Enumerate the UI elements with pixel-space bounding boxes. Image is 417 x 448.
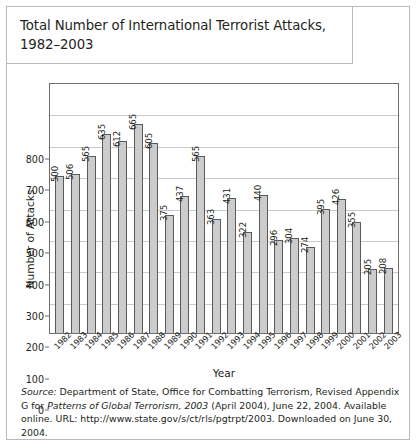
bar-value-label: 208: [378, 258, 388, 274]
bar-value-label: 665: [128, 114, 138, 130]
y-axis-tick-label: 800: [26, 154, 44, 165]
x-axis-tick: 2000: [334, 335, 350, 371]
x-axis-tick: 1983: [67, 335, 83, 371]
bar: 375: [165, 215, 174, 333]
bar-value-label: 635: [97, 124, 107, 140]
x-axis-tick: 1989: [161, 335, 177, 371]
bar-value-label: 296: [269, 230, 279, 246]
bar: 565: [87, 156, 96, 333]
bar: 612: [118, 141, 127, 333]
bar-value-label: 565: [191, 146, 201, 162]
bar-slot: 500: [52, 84, 68, 333]
bar-slot: 635: [99, 84, 115, 333]
bar-slot: 205: [365, 84, 381, 333]
bar-slot: 437: [177, 84, 193, 333]
bar-value-label: 506: [65, 164, 75, 180]
bar-value-label: 565: [81, 146, 91, 162]
bar-value-label: 437: [175, 186, 185, 202]
x-axis-tick: 2003: [381, 335, 397, 371]
bar-value-label: 274: [300, 237, 310, 253]
bar: 208: [384, 268, 393, 333]
bar-value-label: 440: [253, 185, 263, 201]
bar-value-label: 612: [112, 131, 122, 147]
bar: 363: [212, 219, 221, 333]
x-axis-tick: 1988: [145, 335, 161, 371]
bar-value-label: 304: [284, 228, 294, 244]
page-title: Total Number of International Terrorist …: [20, 16, 344, 54]
bar: 426: [337, 199, 346, 333]
x-axis-tick: 1995: [256, 335, 272, 371]
bar-series: 5005065656356126656053754375653634313224…: [50, 84, 398, 333]
bar: 322: [243, 232, 252, 333]
y-axis-tick-label: 100: [26, 373, 44, 384]
bar: 395: [321, 209, 330, 333]
bar-slot: 304: [287, 84, 303, 333]
bar: 274: [306, 247, 315, 333]
bar-slot: 431: [224, 84, 240, 333]
y-axis-tick-label: 200: [26, 342, 44, 353]
y-axis-tick-label: 400: [26, 279, 44, 290]
bar-value-label: 355: [347, 212, 357, 228]
bar-value-label: 500: [50, 166, 60, 182]
x-axis-tick: 1986: [114, 335, 130, 371]
source-label: Source:: [21, 386, 57, 397]
bar-slot: 395: [318, 84, 334, 333]
y-axis-tick-label: 500: [26, 248, 44, 259]
y-axis: Number of Attacks 0100200300400500600700…: [7, 83, 49, 334]
bar-value-label: 375: [159, 205, 169, 221]
bar-slot: 426: [334, 84, 350, 333]
bar-value-label: 363: [206, 209, 216, 225]
bar-slot: 565: [83, 84, 99, 333]
x-axis-tick: 1985: [98, 335, 114, 371]
bar: 296: [274, 240, 283, 333]
bar: 440: [259, 195, 268, 333]
figure-frame: Total Number of International Terrorist …: [6, 6, 410, 440]
bar: 565: [196, 156, 205, 333]
bar-slot: 208: [380, 84, 396, 333]
x-axis-tick: 1991: [193, 335, 209, 371]
x-axis-tick: 1998: [303, 335, 319, 371]
x-axis-label: Year: [49, 367, 399, 379]
x-axis: 1982198319841985198619871988198919901991…: [49, 335, 399, 371]
bar-slot: 506: [68, 84, 84, 333]
bar: 605: [149, 143, 158, 333]
bar-slot: 322: [240, 84, 256, 333]
y-axis-tick-label: 300: [26, 310, 44, 321]
bar-value-label: 605: [144, 133, 154, 149]
x-axis-tick: 1996: [271, 335, 287, 371]
bar: 304: [290, 238, 299, 333]
bar: 635: [102, 134, 111, 333]
bar-value-label: 426: [331, 189, 341, 205]
bar-slot: 665: [130, 84, 146, 333]
bar: 500: [55, 176, 64, 333]
x-axis-tick: 2002: [366, 335, 382, 371]
x-axis-tick: 1992: [208, 335, 224, 371]
x-axis-tick: 1987: [130, 335, 146, 371]
bar-slot: 375: [161, 84, 177, 333]
bar: 431: [227, 198, 236, 333]
source-line2-prefix: for: [31, 400, 47, 411]
x-axis-tick: 1990: [177, 335, 193, 371]
source-note: Source: Department of State, Office for …: [21, 385, 401, 439]
y-axis-tick-label: 600: [26, 216, 44, 227]
bar: 355: [352, 222, 361, 333]
bar-slot: 355: [349, 84, 365, 333]
bar-value-label: 322: [238, 222, 248, 238]
chart-title-box: Total Number of International Terrorist …: [7, 7, 353, 64]
x-axis-tick: 1993: [224, 335, 240, 371]
bar-value-label: 395: [316, 199, 326, 215]
x-axis-tick: 1999: [318, 335, 334, 371]
bar-slot: 440: [255, 84, 271, 333]
bar-slot: 363: [208, 84, 224, 333]
plot-area: 5005065656356126656053754375653634313224…: [49, 83, 399, 334]
bar-value-label: 431: [222, 188, 232, 204]
x-axis-tick: 1997: [287, 335, 303, 371]
bar: 506: [71, 174, 80, 333]
y-axis-tick-label: 700: [26, 185, 44, 196]
x-axis-tick: 1984: [82, 335, 98, 371]
source-url-line: URL: http://www.state.gov/s/ct/rls/pgtrp…: [21, 413, 392, 438]
x-axis-tick: 2001: [350, 335, 366, 371]
bar: 205: [368, 269, 377, 333]
bar: 665: [134, 124, 143, 333]
x-axis-tick: 1994: [240, 335, 256, 371]
